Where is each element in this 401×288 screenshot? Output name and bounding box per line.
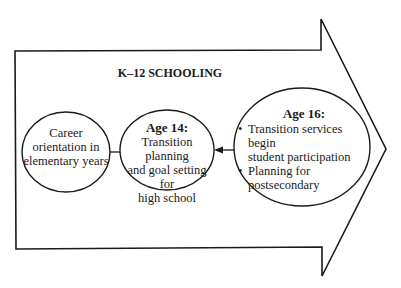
bullet-text-line: postsecondary — [248, 178, 370, 192]
arrowhead-icon — [214, 147, 223, 154]
bullet-icon: • — [238, 164, 242, 178]
node-heading: Age 16: — [238, 107, 370, 121]
node-text-line: Career — [22, 126, 110, 140]
node-text-line: elementary years — [22, 154, 110, 168]
diagram-title: K–12 SCHOOLING — [100, 66, 240, 80]
node-text-line: orientation in — [22, 140, 110, 154]
node-age16-label: Age 16: • Transition services begin stud… — [238, 107, 370, 192]
node-heading: Age 14: — [120, 121, 214, 135]
node-text-line: high school — [120, 191, 214, 205]
bullet-item: • Planning for postsecondary — [238, 164, 370, 192]
bullet-text-line: Planning for — [248, 164, 370, 178]
node-text-line: and goal setting for — [120, 163, 214, 191]
bullet-icon: • — [238, 122, 242, 136]
node-elementary-label: Career orientation in elementary years — [22, 126, 110, 168]
bullet-text-line: student participation — [248, 150, 370, 164]
bullet-text-line: Transition services begin — [248, 122, 370, 150]
bullet-item: • Transition services begin student part… — [238, 122, 370, 164]
node-text-line: Transition planning — [120, 135, 214, 163]
node-age14-label: Age 14: Transition planning and goal set… — [120, 121, 214, 205]
